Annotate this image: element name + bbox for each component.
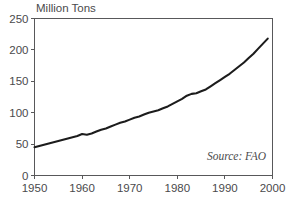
- source-annotation: Source: FAO: [207, 150, 267, 162]
- data-series-line: [35, 39, 268, 148]
- x-axis: 195019601970198019902000: [22, 176, 286, 194]
- x-tick-label: 2000: [260, 182, 286, 194]
- x-tick-label: 1980: [165, 182, 191, 194]
- y-tick-label: 200: [9, 44, 28, 56]
- y-tick-label: 0: [22, 170, 28, 182]
- x-tick-label: 1960: [69, 182, 95, 194]
- chart-container: Million Tons 050100150200250 19501960197…: [0, 0, 288, 203]
- y-tick-group: 050100150200250: [9, 13, 34, 182]
- y-tick-label: 50: [16, 138, 29, 150]
- line-chart: Million Tons 050100150200250 19501960197…: [0, 0, 288, 203]
- y-tick-label: 250: [9, 13, 28, 25]
- y-tick-label: 100: [9, 107, 28, 119]
- y-axis: 050100150200250: [9, 13, 34, 182]
- x-tick-label: 1990: [212, 182, 238, 194]
- x-tick-group: 195019601970198019902000: [22, 176, 286, 194]
- x-tick-label: 1950: [22, 182, 48, 194]
- x-tick-label: 1970: [117, 182, 143, 194]
- chart-title: Million Tons: [36, 2, 96, 14]
- y-tick-label: 150: [9, 75, 28, 87]
